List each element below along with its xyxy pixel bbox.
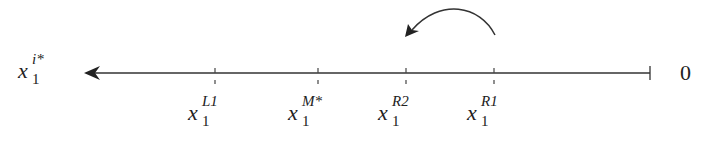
label-sub: 1: [202, 114, 210, 129]
label-x1-L1: xL11: [188, 102, 198, 124]
label-base: x: [188, 100, 198, 125]
label-sup: R1: [481, 94, 498, 109]
label-base: x: [18, 58, 28, 83]
label-base: x: [378, 100, 388, 125]
label-sub: 1: [302, 114, 310, 129]
label-base: x: [288, 100, 298, 125]
label-x1-R2: xR21: [378, 102, 388, 124]
label-x1-Mstar: xM*1: [288, 102, 298, 124]
label-zero: 0: [680, 62, 691, 84]
label-sup: M*: [302, 94, 322, 109]
label-x1-R1: xR11: [467, 102, 477, 124]
curved-arrowhead-icon: [405, 24, 419, 37]
number-line-diagram: [0, 0, 714, 149]
label-sup: L1: [202, 94, 218, 109]
label-sub: 1: [32, 72, 40, 87]
curved-arrow: [412, 9, 495, 35]
ticks: [215, 68, 494, 84]
label-x1-istar: xi*1: [18, 60, 28, 82]
label-sub: 1: [481, 114, 489, 129]
label-sup: i*: [32, 52, 44, 67]
label-base: x: [467, 100, 477, 125]
label-sub: 1: [392, 114, 400, 129]
label-sup: R2: [392, 94, 409, 109]
